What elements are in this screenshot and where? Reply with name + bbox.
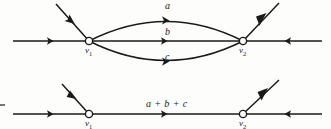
bottom-right-diagonal-ray <box>243 80 279 114</box>
top-right-diagonal-ray <box>243 3 279 41</box>
node-label-subscript: 2 <box>243 123 246 129</box>
bottom-right-horizontal-ray <box>243 110 322 117</box>
figure-canvas <box>0 0 331 129</box>
graph-figure: a b c a + b + c v1 v2 v1 v2 <box>0 0 331 129</box>
node-label-subscript: 1 <box>89 50 92 57</box>
top-right-horizontal-ray <box>243 37 322 44</box>
bottom-node-v1[interactable] <box>85 110 92 117</box>
top-left-horizontal-ray <box>13 37 89 44</box>
bottom-left-horizontal-ray <box>13 110 89 117</box>
bottom-node-v2[interactable] <box>239 110 246 117</box>
top-node-v1[interactable] <box>85 37 92 44</box>
edge-label-a: a <box>165 1 170 11</box>
top-node-label-v1: v1 <box>85 46 92 57</box>
edge-label-b: b <box>165 27 170 37</box>
arrowhead-upright-icon <box>256 13 267 26</box>
bottom-node-label-v2: v2 <box>239 119 246 129</box>
edge-label-sum: a + b + c <box>146 99 188 109</box>
arrowhead-right-icon <box>162 16 169 24</box>
bottom-left-diagonal-ray <box>62 84 89 114</box>
top-node-label-v2: v2 <box>239 46 246 57</box>
top-edge-b <box>89 37 243 44</box>
top-left-diagonal-ray <box>56 4 89 41</box>
node-label-subscript: 2 <box>243 50 246 57</box>
edge-label-c: c <box>165 52 169 62</box>
bottom-node-label-v1: v1 <box>85 119 92 129</box>
top-node-v2[interactable] <box>239 37 246 44</box>
node-label-subscript: 1 <box>89 123 92 129</box>
bottom-edge-sum <box>89 110 243 117</box>
